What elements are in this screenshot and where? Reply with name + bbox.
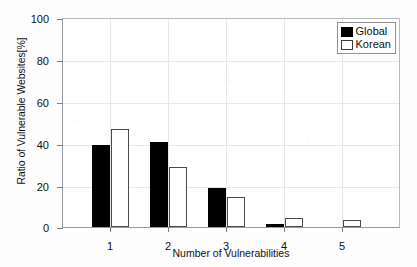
legend-entry-korean: Korean (341, 38, 391, 51)
y-tick-label-40: 40 (37, 139, 49, 151)
y-tick-label-60: 60 (37, 97, 49, 109)
legend-label-korean: Korean (356, 39, 391, 50)
y-tick-80: 80 (57, 61, 63, 62)
gridline-x-4 (284, 19, 285, 227)
y-tick-0: 0 (57, 228, 63, 229)
plot-area: 100 80 60 40 20 0 1 2 3 4 5 (62, 18, 400, 228)
legend-entry-global: Global (341, 25, 391, 38)
legend-swatch-global-icon (341, 27, 353, 37)
gridline-x-3 (226, 19, 227, 227)
legend: Global Korean (337, 22, 396, 54)
bar-korean-4 (285, 218, 303, 227)
legend-swatch-korean-icon (341, 40, 353, 50)
bar-global-4 (266, 224, 284, 227)
bar-korean-3 (227, 197, 245, 227)
y-tick-100: 100 (57, 19, 63, 20)
bar-korean-5 (343, 220, 361, 227)
y-tick-20: 20 (57, 187, 63, 188)
y-axis-label: Ratio of Vulnerable Websites[%] (15, 16, 27, 206)
figure-canvas: Ratio of Vulnerable Websites[%] 100 80 6… (0, 0, 417, 267)
bar-global-2 (150, 142, 168, 227)
y-tick-label-80: 80 (37, 55, 49, 67)
legend-label-global: Global (356, 26, 388, 37)
x-tick-4: 4 (284, 227, 285, 232)
y-tick-60: 60 (57, 103, 63, 104)
bar-global-1 (92, 145, 110, 227)
x-tick-3: 3 (226, 227, 227, 232)
x-tick-5: 5 (342, 227, 343, 232)
y-tick-label-100: 100 (31, 13, 49, 25)
gridline-y-80 (63, 61, 399, 62)
x-axis-label: Number of Vulnerabilities (62, 247, 400, 259)
y-tick-40: 40 (57, 145, 63, 146)
gridline-y-60 (63, 103, 399, 104)
bar-korean-1 (111, 129, 129, 227)
x-tick-2: 2 (168, 227, 169, 232)
bar-global-3 (208, 188, 226, 227)
y-tick-label-20: 20 (37, 181, 49, 193)
y-tick-label-0: 0 (43, 222, 49, 234)
bar-korean-2 (169, 167, 187, 227)
x-tick-1: 1 (110, 227, 111, 232)
